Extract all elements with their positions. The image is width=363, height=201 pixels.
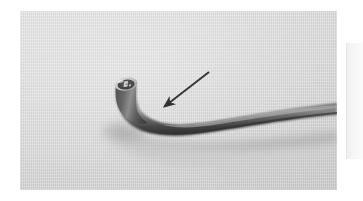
pointer-arrow	[20, 11, 337, 190]
adjacent-panel-edge	[346, 43, 363, 159]
instrument-photograph	[20, 11, 337, 190]
